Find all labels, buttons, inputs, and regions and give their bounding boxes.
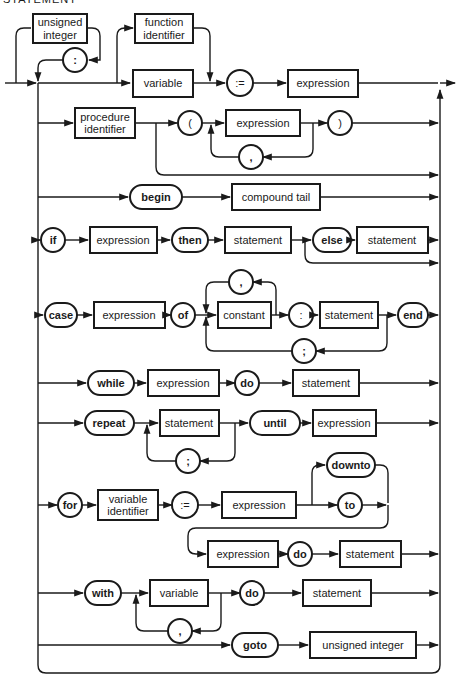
compound-tail-text: compound tail [242,191,311,203]
do-text: do [240,377,254,389]
unsigned-integer-text: unsigned integer [322,639,404,651]
function-identifier-line2: identifier [143,29,185,41]
statement-text: statement [346,548,394,560]
variable-text: variable [144,77,183,89]
variable-identifier-line2: identifier [107,505,149,517]
row-compound: begin compound tail [38,184,438,210]
assign-text: := [180,499,189,511]
statement-text: statement [313,587,361,599]
case-text: case [49,309,73,321]
rails [5,83,455,673]
unsigned-integer-label-line2: integer [43,29,77,41]
diagram-title: STATEMENT [3,0,77,5]
expression-text: expression [216,548,269,560]
variable-text: variable [160,587,199,599]
begin-text: begin [141,191,171,203]
end-text: end [403,309,423,321]
expression-text: expression [102,309,155,321]
if-text: if [50,234,57,246]
statement-text: statement [368,234,416,246]
comma-text: , [249,151,252,163]
rparen-text: ) [338,117,342,129]
row-case: case expression of constant : statement … [38,270,438,363]
row-goto: goto unsigned integer [38,632,438,658]
row-repeat: repeat statement until expression ; [38,410,438,473]
expression-text: expression [96,234,149,246]
lparen-text: ( [188,117,192,129]
procedure-identifier-line2: identifier [84,123,126,135]
semicolon-text: ; [302,345,306,357]
row-while: while expression do statement [38,370,438,396]
comma-text: , [239,276,242,288]
for-text: for [63,499,78,511]
statement-text: statement [302,377,350,389]
function-identifier-line1: function [145,16,184,28]
until-text: until [263,417,286,429]
row-if: if expression then statement else statem… [38,227,438,263]
expression-text: expression [232,499,285,511]
variable-identifier-line1: variable [109,493,148,505]
while-text: while [96,377,125,389]
semicolon-text: ; [186,455,190,467]
row-assignment: unsigned integer : function identifier v… [16,14,438,97]
colon-text: : [299,309,302,321]
to-text: to [345,499,356,511]
procedure-identifier-line1: procedure [80,111,130,123]
downto-text: downto [331,459,370,471]
do-text: do [245,587,259,599]
constant-text: constant [223,309,265,321]
expression-text: expression [236,117,289,129]
else-text: else [321,234,342,246]
statement-text: statement [165,417,213,429]
assign-text: := [235,77,244,89]
with-text: with [91,587,114,599]
colon-text: : [73,54,77,66]
expression-text: expression [156,377,209,389]
statement-text: statement [234,234,282,246]
row-procedure-call: procedure identifier ( expression ) , [38,108,438,175]
goto-text: goto [243,639,267,651]
statement-syntax-diagram: STATEMENT unsigned integer : function id… [0,0,462,687]
repeat-text: repeat [92,417,125,429]
row-for: for variable identifier := expression do… [38,453,438,567]
statement-text: statement [325,309,373,321]
comma-text: , [178,625,181,637]
then-text: then [178,234,202,246]
of-text: of [178,309,189,321]
unsigned-integer-label-line1: unsigned [38,16,83,28]
expression-text: expression [296,77,349,89]
do-text: do [293,548,307,560]
expression-text: expression [317,417,370,429]
